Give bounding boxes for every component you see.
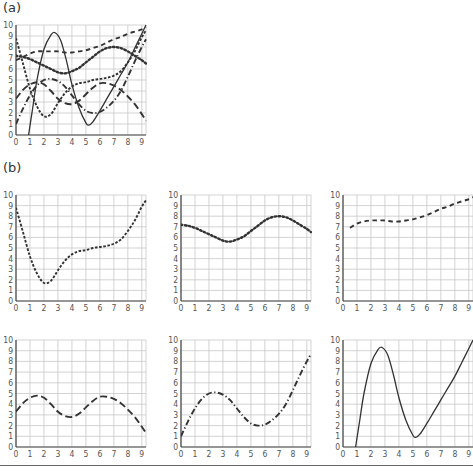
y-tick-label: 7 <box>8 222 13 232</box>
x-tick-label: 7 <box>276 449 281 459</box>
x-tick-label: 1 <box>193 449 198 459</box>
grid <box>16 195 146 301</box>
x-tick-label: 8 <box>290 449 295 459</box>
x-tick-label: 4 <box>69 137 74 147</box>
y-tick-label: 4 <box>335 254 340 264</box>
x-tick-label: 8 <box>125 449 130 459</box>
y-tick-label: 2 <box>335 275 340 285</box>
y-tick-label: 2 <box>173 275 178 285</box>
x-tick-label: 0 <box>14 137 19 147</box>
y-tick-label: 5 <box>173 243 178 253</box>
y-tick-label: 1 <box>8 285 13 295</box>
y-tick-label: 7 <box>173 367 178 377</box>
x-tick-label: 7 <box>111 303 116 313</box>
x-tick-label: 9 <box>304 303 309 313</box>
x-tick-label: 3 <box>220 303 225 313</box>
y-tick-label: 8 <box>8 211 13 221</box>
chart-panel-b2: 0123456789100123456789 <box>168 190 311 313</box>
y-tick-label: 3 <box>8 97 13 107</box>
x-tick-label: 7 <box>438 449 443 459</box>
chart-panel-b6: 0123456789100123456789 <box>330 335 473 459</box>
y-tick-label: 0 <box>335 442 340 452</box>
y-tick-label: 5 <box>335 243 340 253</box>
x-tick-label: 6 <box>97 137 102 147</box>
chart-panel-b3: 0123456789100123456789 <box>330 190 473 313</box>
y-tick-label: 6 <box>8 378 13 388</box>
y-tick-label: 4 <box>8 86 13 96</box>
x-tick-label: 8 <box>290 303 295 313</box>
x-tick-label: 1 <box>355 449 360 459</box>
chart-panel-a: 0123456789100123456789 <box>3 20 146 147</box>
y-tick-label: 9 <box>173 346 178 356</box>
x-tick-label: 6 <box>424 303 429 313</box>
x-tick-label: 2 <box>42 449 47 459</box>
x-tick-label: 1 <box>193 303 198 313</box>
y-tick-label: 6 <box>335 378 340 388</box>
x-tick-label: 1 <box>28 449 33 459</box>
x-tick-label: 5 <box>83 137 88 147</box>
y-tick-label: 4 <box>8 399 13 409</box>
x-tick-label: 2 <box>369 303 374 313</box>
chart-panel-b4: 0123456789100123456789 <box>3 335 146 459</box>
y-tick-label: 9 <box>8 201 13 211</box>
y-tick-label: 6 <box>173 378 178 388</box>
x-tick-label: 3 <box>55 303 60 313</box>
x-tick-label: 3 <box>382 303 387 313</box>
x-tick-label: 4 <box>234 303 239 313</box>
x-tick-label: 9 <box>139 137 144 147</box>
x-tick-label: 5 <box>410 449 415 459</box>
x-tick-label: 8 <box>452 303 457 313</box>
y-tick-label: 8 <box>335 211 340 221</box>
y-tick-label: 1 <box>335 431 340 441</box>
y-tick-label: 8 <box>8 42 13 52</box>
y-tick-label: 8 <box>173 356 178 366</box>
x-tick-label: 3 <box>220 449 225 459</box>
y-tick-label: 7 <box>335 367 340 377</box>
x-tick-label: 9 <box>139 303 144 313</box>
y-tick-label: 3 <box>8 410 13 420</box>
x-tick-label: 7 <box>111 137 116 147</box>
series-line-dashed-long <box>16 396 146 433</box>
y-tick-label: 10 <box>330 190 340 200</box>
y-tick-label: 5 <box>173 389 178 399</box>
y-tick-label: 8 <box>173 211 178 221</box>
x-tick-label: 9 <box>304 449 309 459</box>
x-tick-label: 9 <box>466 449 471 459</box>
y-tick-label: 9 <box>8 31 13 41</box>
x-tick-label: 6 <box>262 449 267 459</box>
chart-panel-b5: 0123456789100123456789 <box>168 335 311 459</box>
x-tick-label: 4 <box>396 303 401 313</box>
x-tick-label: 2 <box>369 449 374 459</box>
y-tick-label: 1 <box>8 119 13 129</box>
y-tick-label: 3 <box>335 410 340 420</box>
y-tick-label: 9 <box>335 201 340 211</box>
y-tick-label: 10 <box>3 335 13 345</box>
x-tick-label: 2 <box>42 137 47 147</box>
y-tick-label: 6 <box>8 232 13 242</box>
x-tick-label: 2 <box>42 303 47 313</box>
x-tick-label: 7 <box>438 303 443 313</box>
x-tick-label: 6 <box>424 449 429 459</box>
series-line-medium-dash <box>16 27 146 60</box>
y-tick-label: 2 <box>8 421 13 431</box>
y-tick-label: 3 <box>335 264 340 274</box>
chart-panel-b1: 0123456789100123456789 <box>3 190 146 313</box>
y-tick-label: 5 <box>335 389 340 399</box>
x-tick-label: 6 <box>97 449 102 459</box>
y-tick-label: 9 <box>173 201 178 211</box>
series-line-dotted <box>181 216 311 241</box>
x-tick-label: 0 <box>14 449 19 459</box>
x-tick-label: 4 <box>396 449 401 459</box>
y-tick-label: 2 <box>173 421 178 431</box>
y-tick-label: 0 <box>8 130 13 140</box>
y-tick-label: 6 <box>8 64 13 74</box>
x-tick-label: 2 <box>207 449 212 459</box>
y-tick-label: 1 <box>335 285 340 295</box>
x-tick-label: 5 <box>248 303 253 313</box>
y-tick-label: 0 <box>8 442 13 452</box>
x-tick-label: 1 <box>28 303 33 313</box>
y-tick-label: 6 <box>335 232 340 242</box>
y-tick-label: 7 <box>173 222 178 232</box>
x-tick-label: 3 <box>55 137 60 147</box>
y-tick-label: 3 <box>173 410 178 420</box>
